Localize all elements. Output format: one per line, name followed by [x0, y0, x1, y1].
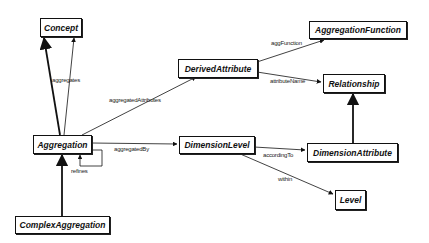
class-name: Concept	[44, 23, 78, 33]
class-dimension-attribute[interactable]: DimensionAttribute	[307, 143, 398, 162]
class-name: ComplexAggregation	[20, 220, 106, 230]
assoc-aggregates	[64, 38, 74, 135]
label-accordingTo: accordingTo	[263, 152, 293, 158]
class-name: Aggregation	[37, 140, 87, 150]
class-aggregation-function[interactable]: AggregationFunction	[309, 21, 407, 39]
class-relationship[interactable]: Relationship	[323, 74, 385, 93]
label-aggregatedAttributes: aggregatedAttributes	[109, 97, 161, 103]
class-dimension-level[interactable]: DimensionLevel	[179, 136, 255, 154]
assoc-aggregatedBy	[91, 143, 177, 144]
class-name: Relationship	[328, 79, 379, 89]
label-aggregatedBy: aggregatedBy	[114, 146, 149, 152]
class-name: AggregationFunction	[315, 25, 401, 35]
generalization-aggregation-concept	[44, 38, 60, 135]
class-derived-attribute[interactable]: DerivedAttribute	[178, 59, 258, 78]
assoc-accordingTo	[254, 147, 305, 150]
label-within: within	[278, 176, 292, 182]
class-name: DimensionAttribute	[313, 148, 392, 158]
label-attributeName: attributeName	[270, 78, 305, 84]
assoc-aggregatedAttributes	[82, 77, 196, 135]
class-name: DerivedAttribute	[185, 64, 252, 74]
class-level[interactable]: Level	[335, 190, 366, 210]
label-aggregates: aggregates	[52, 77, 80, 83]
class-name: Level	[340, 195, 362, 205]
label-refines: refines	[71, 168, 88, 174]
class-name: DimensionLevel	[184, 140, 249, 150]
class-complex-aggregation[interactable]: ComplexAggregation	[15, 216, 110, 234]
class-aggregation[interactable]: Aggregation	[33, 135, 92, 154]
class-concept[interactable]: Concept	[40, 18, 82, 37]
label-aggFunction: aggFunction	[271, 40, 302, 46]
